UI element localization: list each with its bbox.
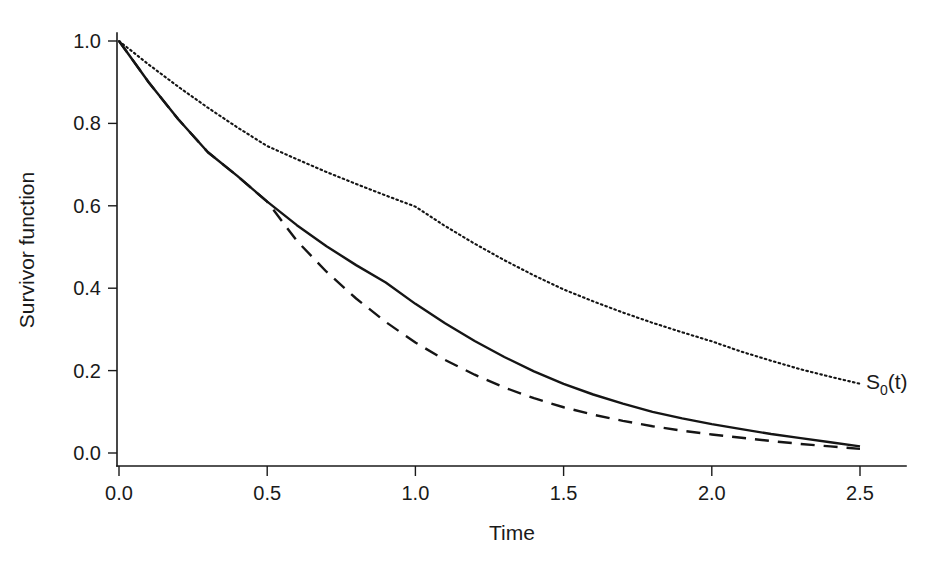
annotation-subscript: 0 [880,382,888,398]
y-tick-label: 0.4 [73,277,101,299]
survivor-function-chart: 0.00.20.40.60.81.0 0.00.51.01.52.02.5 Su… [0,0,951,569]
y-tick-label: 1.0 [73,30,101,52]
x-axis-ticks: 0.00.51.01.52.02.5 [105,466,874,504]
annotation-symbol: S [866,370,880,393]
chart-figure: 0.00.20.40.60.81.0 0.00.51.01.52.02.5 Su… [0,0,951,569]
series-group [119,41,860,449]
y-tick-label: 0.0 [73,442,101,464]
annotation-argument: (t) [888,370,908,393]
annotation-group: S0(t) [866,370,908,398]
baseline-survivor-label: S0(t) [866,370,908,398]
series-line-treated-solid [119,41,860,446]
series-line-treated-dashed [119,41,860,449]
y-axis-title: Survivor function [15,172,38,328]
x-tick-label: 1.0 [401,482,429,504]
x-tick-label: 1.5 [550,482,578,504]
x-tick-label: 0.0 [105,482,133,504]
y-tick-label: 0.6 [73,195,101,217]
series-line-baseline [119,41,860,384]
x-tick-label: 2.0 [698,482,726,504]
y-tick-label: 0.8 [73,112,101,134]
x-tick-label: 2.5 [846,482,874,504]
y-axis-ticks: 0.00.20.40.60.81.0 [73,30,117,464]
x-tick-label: 0.5 [253,482,281,504]
y-tick-label: 0.2 [73,360,101,382]
x-axis-title: Time [489,521,535,544]
